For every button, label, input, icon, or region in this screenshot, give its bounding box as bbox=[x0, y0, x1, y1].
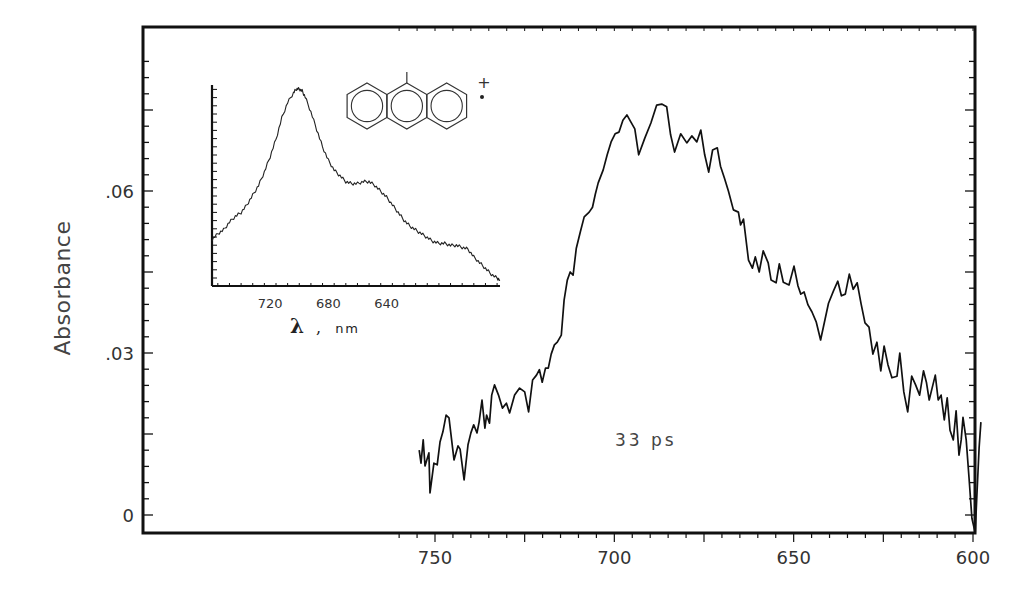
x-tick-label: 700 bbox=[597, 547, 631, 568]
inset-x-tick-label: 640 bbox=[374, 296, 399, 311]
y-tick-label: .03 bbox=[105, 343, 134, 364]
inset-axes bbox=[212, 85, 500, 286]
y-axis-label: Absorbance bbox=[50, 220, 75, 355]
inset-x-tick-label: 680 bbox=[316, 296, 341, 311]
y-tick-label: .06 bbox=[105, 181, 134, 202]
main-tick-labels: 7507006506000.03.06 bbox=[105, 181, 990, 568]
x-tick-label: 600 bbox=[956, 547, 990, 568]
lambda-symbol: λ bbox=[290, 314, 304, 338]
main-spectrum-line bbox=[419, 104, 981, 533]
inset-x-tick-label: 720 bbox=[258, 296, 283, 311]
inset-tick-labels: 720680640 bbox=[258, 296, 399, 311]
x-tick-label: 650 bbox=[776, 547, 810, 568]
time-delay-annotation: 33 ps bbox=[615, 430, 677, 450]
main-axis-ticks bbox=[143, 27, 975, 542]
inset-label-unit: nm bbox=[335, 321, 360, 336]
charge-mark: + bbox=[477, 73, 490, 92]
chart-canvas: 7507006506000.03.06 720680640 + bbox=[0, 0, 1021, 610]
inset-x-axis-label: λ,nm bbox=[290, 314, 360, 338]
x-tick-label: 750 bbox=[418, 547, 452, 568]
y-tick-label: 0 bbox=[123, 505, 134, 526]
anthracene-structure-icon: + bbox=[347, 72, 491, 129]
inset-label-separator: , bbox=[316, 318, 321, 337]
